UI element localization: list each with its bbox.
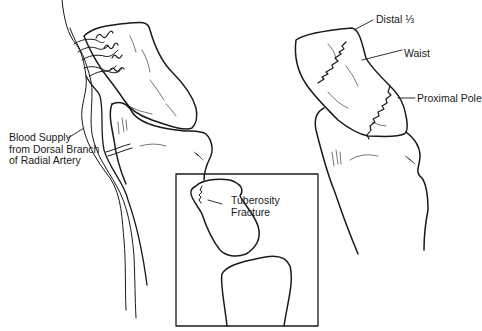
tuberosity-fracture-label: Tuberosity Fracture: [231, 195, 280, 218]
tuberosity-label-line-2: Fracture: [231, 207, 280, 219]
tuberosity-label-line-1: Tuberosity: [231, 195, 280, 207]
distal-third-label: Distal ⅓: [376, 14, 414, 26]
blood-supply-label-line-1: Blood Supply: [9, 132, 99, 144]
blood-supply-label: Blood Supply from Dorsal Branch of Radia…: [9, 132, 99, 167]
waist-label: Waist: [404, 48, 430, 60]
proximal-pole-label: Proximal Pole: [417, 93, 482, 105]
blood-supply-label-line-3: of Radial Artery: [9, 155, 99, 167]
